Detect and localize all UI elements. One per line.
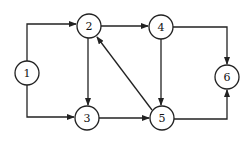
svg-text:1: 1 [24, 67, 31, 80]
edge-5-6 [174, 90, 227, 119]
svg-text:6: 6 [224, 71, 231, 84]
node-2: 2 [77, 14, 101, 38]
edge-1-2 [27, 24, 76, 61]
svg-text:4: 4 [158, 21, 165, 34]
node-3: 3 [75, 106, 99, 130]
node-4: 4 [149, 15, 173, 39]
svg-text:2: 2 [86, 20, 93, 33]
svg-text:3: 3 [84, 112, 91, 125]
edge-4-6 [173, 27, 227, 64]
node-5: 5 [150, 106, 174, 130]
graph-diagram: 1 2 3 4 5 6 [0, 0, 251, 141]
edge-5-2 [97, 37, 152, 110]
node-6: 6 [215, 65, 239, 89]
edge-1-3 [27, 85, 74, 117]
svg-text:5: 5 [159, 112, 166, 125]
node-1: 1 [15, 61, 39, 85]
